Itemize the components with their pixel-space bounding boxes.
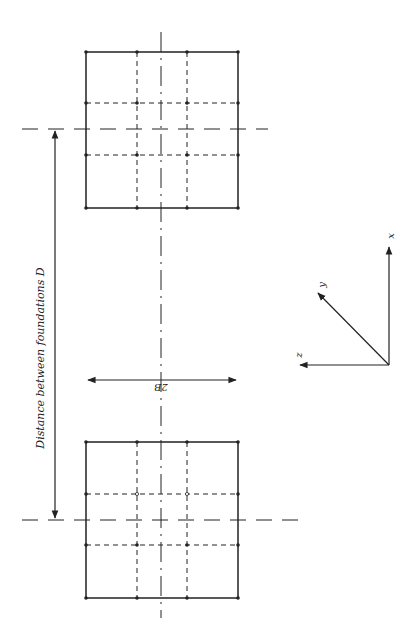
foundation-diagram: Distance between foundations D 2B x y z [0, 0, 419, 635]
coordinate-axes: x y z [293, 233, 396, 365]
grid-nodes [84, 50, 240, 210]
x-axis-label: x [385, 233, 396, 239]
foundation-top [84, 50, 240, 210]
z-axis-label: z [293, 352, 304, 359]
width-label: 2B [154, 382, 169, 393]
y-axis-label: y [316, 282, 327, 289]
distance-label: Distance between foundations D [34, 267, 47, 449]
y-axis-arrow [318, 293, 389, 365]
